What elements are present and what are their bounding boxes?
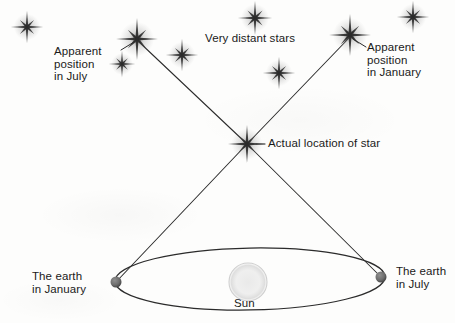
- earth-january-marker: [111, 277, 122, 288]
- background-star-right-center: [263, 57, 295, 89]
- label-sun: Sun: [234, 297, 255, 310]
- sight-lines-layer: [116, 38, 381, 282]
- sightline-january-to-star: [116, 144, 247, 282]
- earth-july-marker: [376, 272, 387, 283]
- background-star-far-right: [397, 1, 429, 33]
- apparent-position-january-star: [329, 14, 371, 56]
- sightline-july-to-star: [247, 144, 381, 277]
- leader-lines-layer: [121, 39, 366, 144]
- parallax-diagram: Apparent position in July Apparent posit…: [0, 0, 455, 323]
- background-star-far-left: [11, 11, 43, 43]
- sun-disc: [229, 263, 267, 301]
- sightline-star-to-apparent-january: [247, 38, 349, 144]
- label-apparent-position-january: Apparent position in January: [367, 41, 421, 79]
- label-very-distant-stars: Very distant stars: [205, 32, 295, 45]
- background-star-top-center: [238, 1, 272, 35]
- label-apparent-position-july: Apparent position in July: [54, 45, 101, 83]
- label-earth-in-july: The earth in July: [396, 265, 446, 290]
- label-actual-location-of-star: Actual location of star: [268, 137, 380, 150]
- background-star-left-center: [166, 39, 198, 71]
- label-earth-in-january: The earth in January: [32, 270, 86, 295]
- sun-layer: [229, 263, 267, 301]
